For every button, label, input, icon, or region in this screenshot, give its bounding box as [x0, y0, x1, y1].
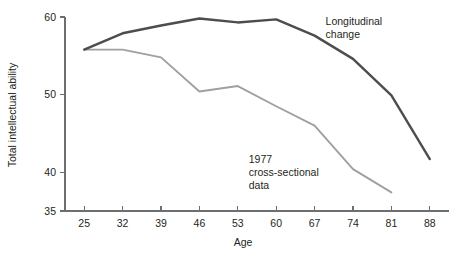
x-axis-tick-labels: 25323946536067748188: [78, 217, 435, 229]
x-tick-label: 46: [194, 217, 206, 229]
cross-sectional-label: 1977cross-sectionaldata: [249, 153, 319, 191]
x-tick-label: 39: [155, 217, 167, 229]
x-tick-label: 81: [386, 217, 398, 229]
x-tick-label: 25: [78, 217, 90, 229]
x-tick-label: 60: [270, 217, 282, 229]
x-tick-label: 53: [232, 217, 244, 229]
cross-sectional-label-line-2: data: [249, 179, 270, 191]
cross-sectional-label-line-0: 1977: [249, 153, 273, 165]
line-chart: 35405060 25323946536067748188 Longitudin…: [0, 0, 457, 259]
series-line-longitudinal: [84, 19, 430, 159]
series-line-cross-sectional: [84, 50, 391, 193]
x-axis-title: Age: [234, 236, 253, 248]
longitudinal-label-line-0: Longitudinal: [326, 15, 383, 27]
y-tick-label: 50: [44, 88, 56, 100]
chart-container: 35405060 25323946536067748188 Longitudin…: [0, 0, 457, 259]
tick-label-group: 35405060 25323946536067748188: [44, 11, 435, 229]
y-axis-tick-labels: 35405060: [44, 11, 56, 217]
y-axis-title: Total intellectual ability: [6, 62, 18, 167]
x-axis-ticks: [84, 206, 430, 211]
x-tick-label: 32: [117, 217, 129, 229]
x-tick-label: 88: [424, 217, 436, 229]
y-tick-label: 60: [44, 11, 56, 23]
longitudinal-label: Longitudinalchange: [326, 15, 383, 40]
x-tick-label: 67: [309, 217, 321, 229]
y-axis-ticks: [60, 17, 65, 211]
y-tick-label: 40: [44, 166, 56, 178]
longitudinal-label-line-1: change: [326, 28, 361, 40]
y-tick-label: 35: [44, 205, 56, 217]
cross-sectional-label-line-1: cross-sectional: [249, 166, 319, 178]
x-tick-label: 74: [347, 217, 359, 229]
